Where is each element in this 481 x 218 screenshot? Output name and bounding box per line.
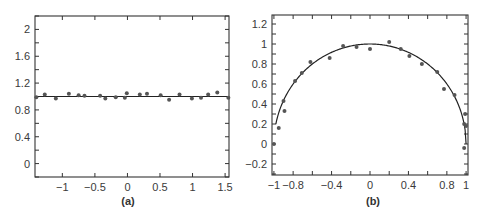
x-tick-label: 0	[367, 179, 373, 191]
x-tick-label: −0.4	[321, 179, 343, 191]
y-tick-label: 0	[261, 138, 267, 150]
y-tick-label: 1.2	[252, 18, 267, 30]
data-point	[368, 47, 372, 51]
data-point	[206, 92, 210, 96]
y-tick-label: 0.4	[15, 131, 30, 143]
data-point	[54, 97, 58, 101]
y-tick-label: −0.2	[245, 158, 267, 170]
data-point	[123, 96, 127, 100]
data-point	[138, 92, 142, 96]
plot-frame	[272, 15, 468, 175]
y-tick-label: 0.8	[252, 58, 267, 70]
data-point	[442, 87, 446, 91]
x-tick-label: −0.8	[282, 179, 304, 191]
data-point	[98, 94, 102, 98]
x-tick-label: 1	[463, 179, 469, 191]
x-tick-label: 0.4	[401, 179, 416, 191]
data-point	[420, 62, 424, 66]
x-tick-label: 1.5	[217, 181, 232, 193]
data-point	[226, 96, 230, 100]
data-point	[190, 97, 194, 101]
chart-a: −1−0.500.511.500.40.81.21.62	[0, 0, 240, 218]
chart-a-panel: −1−0.500.511.500.40.81.21.62 (a)	[0, 0, 240, 218]
data-point	[328, 56, 332, 60]
data-point	[114, 95, 118, 99]
data-point	[43, 92, 47, 96]
data-point	[293, 79, 297, 83]
data-point	[300, 71, 304, 75]
y-tick-label: 1.6	[15, 50, 30, 62]
y-tick-label: 0.2	[252, 118, 267, 130]
data-point	[282, 99, 286, 103]
data-point	[387, 40, 391, 44]
y-tick-label: 1.2	[15, 77, 30, 89]
data-point	[308, 60, 312, 64]
data-point	[159, 93, 163, 97]
data-point	[82, 94, 86, 98]
chart-a-caption: (a)	[108, 195, 148, 207]
x-tick-label: 0	[124, 181, 130, 193]
data-point	[355, 45, 359, 49]
data-point	[199, 96, 203, 100]
data-point	[34, 95, 38, 99]
data-point	[167, 98, 171, 102]
x-tick-label: 1	[189, 181, 195, 193]
y-tick-label: 1	[261, 38, 267, 50]
data-point	[341, 44, 345, 48]
data-point	[103, 97, 107, 101]
data-point	[282, 109, 286, 113]
data-point	[464, 124, 468, 128]
data-point	[178, 92, 182, 96]
chart-b-panel: −1−0.8−0.400.40.81−0.200.20.40.60.811.2 …	[240, 0, 481, 218]
y-tick-label: 0.6	[252, 78, 267, 90]
data-point	[407, 54, 411, 58]
fit-curve	[276, 44, 466, 144]
data-point	[462, 146, 466, 150]
x-tick-label: 0.5	[152, 181, 167, 193]
x-tick-label: −0.5	[84, 181, 106, 193]
data-point	[399, 47, 403, 51]
data-point	[215, 90, 219, 94]
data-point	[463, 112, 467, 116]
data-point	[277, 126, 281, 130]
x-tick-label: −1	[56, 181, 69, 193]
x-tick-label: −1	[268, 179, 281, 191]
data-point	[125, 91, 129, 95]
data-point	[272, 142, 276, 146]
chart-b: −1−0.8−0.400.40.81−0.200.20.40.60.811.2	[240, 0, 481, 218]
x-tick-label: 0.8	[439, 179, 454, 191]
y-tick-label: 2	[24, 23, 30, 35]
data-point	[67, 92, 71, 96]
y-tick-label: 0.4	[252, 98, 267, 110]
data-point	[453, 93, 457, 97]
data-point	[145, 92, 149, 96]
y-tick-label: 0	[24, 158, 30, 170]
chart-b-caption: (b)	[353, 195, 393, 207]
data-point	[435, 70, 439, 74]
data-point	[77, 93, 81, 97]
y-tick-label: 0.8	[15, 104, 30, 116]
